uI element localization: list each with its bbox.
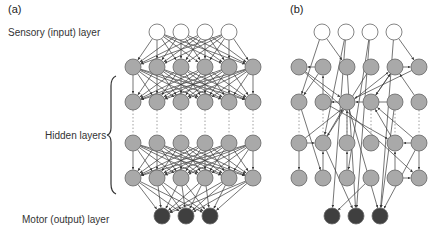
input-node <box>386 24 402 40</box>
panel-a-label: (a) <box>8 3 21 15</box>
hidden-node <box>387 135 403 151</box>
neural-network-diagram: (a) (b) Sensory (input) layer Hidden lay… <box>0 0 443 239</box>
input-node <box>362 24 378 40</box>
edge <box>399 39 414 61</box>
hidden-node <box>315 135 331 151</box>
edge <box>327 39 342 61</box>
hidden-node <box>291 170 307 186</box>
hidden-node <box>411 59 427 75</box>
hidden-node <box>125 94 141 110</box>
edge <box>234 39 249 60</box>
hidden-node <box>315 59 331 75</box>
edge <box>304 74 319 95</box>
hidden-node <box>221 170 237 186</box>
input-node <box>314 24 330 40</box>
hidden-node <box>173 94 189 110</box>
hidden-node <box>125 135 141 151</box>
hidden-node <box>197 170 213 186</box>
hidden-node <box>411 94 427 110</box>
hidden-node <box>149 59 165 75</box>
hidden-node <box>411 135 427 151</box>
edge <box>400 74 415 95</box>
edge <box>330 106 388 139</box>
edge <box>141 35 198 63</box>
edge <box>158 186 161 208</box>
edge <box>349 110 377 208</box>
hidden-node <box>149 94 165 110</box>
input-node <box>197 24 213 40</box>
hidden-layers-label: Hidden layers <box>45 130 106 141</box>
hidden-node <box>363 94 379 110</box>
hidden-node <box>411 170 427 186</box>
output-node <box>372 208 388 224</box>
output-node <box>178 208 194 224</box>
hidden-node <box>363 170 379 186</box>
output-node <box>202 208 218 224</box>
hidden-node <box>315 170 331 186</box>
input-node <box>221 24 237 40</box>
hidden-node <box>339 59 355 75</box>
hidden-node <box>339 94 355 110</box>
hidden-node <box>387 170 403 186</box>
hidden-node <box>315 94 331 110</box>
hidden-node <box>387 94 403 110</box>
hidden-node <box>221 59 237 75</box>
hidden-node <box>125 59 141 75</box>
hidden-node <box>245 170 261 186</box>
output-node <box>154 208 170 224</box>
input-node <box>338 24 354 40</box>
hidden-node <box>291 94 307 110</box>
hidden-node <box>173 59 189 75</box>
input-layer-label: Sensory (input) layer <box>8 27 101 38</box>
input-node <box>149 24 165 40</box>
hidden-node <box>245 135 261 151</box>
hidden-node <box>149 135 165 151</box>
edge <box>138 39 153 60</box>
output-layer-label: Motor (output) layer <box>22 214 110 225</box>
hidden-layers-brace <box>107 76 116 194</box>
hidden-node <box>173 170 189 186</box>
hidden-node <box>339 135 355 151</box>
hidden-node <box>197 59 213 75</box>
panel-a-ellipsis-lines <box>133 110 253 135</box>
hidden-node <box>173 135 189 151</box>
hidden-node <box>197 135 213 151</box>
hidden-node <box>221 94 237 110</box>
hidden-node <box>363 59 379 75</box>
hidden-node <box>149 170 165 186</box>
input-node <box>173 24 189 40</box>
hidden-node <box>339 170 355 186</box>
hidden-node <box>363 135 379 151</box>
edge <box>376 74 391 95</box>
edge <box>375 109 391 136</box>
hidden-node <box>245 94 261 110</box>
output-node <box>324 208 340 224</box>
edge <box>216 183 247 210</box>
hidden-node <box>387 59 403 75</box>
panel-b-label: (b) <box>290 3 303 15</box>
hidden-node <box>291 135 307 151</box>
hidden-node <box>245 59 261 75</box>
panel-b-nodes <box>291 24 427 224</box>
hidden-node <box>221 135 237 151</box>
hidden-node <box>291 59 307 75</box>
output-node <box>348 208 364 224</box>
hidden-node <box>125 170 141 186</box>
edge <box>168 183 199 210</box>
hidden-node <box>197 94 213 110</box>
